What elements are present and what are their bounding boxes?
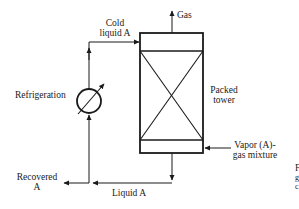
- packed-tower-label-line2: tower: [207, 95, 241, 106]
- vapor-label-line1: Vapor (A)-: [230, 140, 280, 151]
- gas-label: Gas: [177, 10, 192, 21]
- vapor-label-line2: gas mixture: [230, 150, 280, 161]
- cold-liquid-label-line2: liquid A: [93, 28, 137, 39]
- cutoff-text-line1: F: [295, 163, 299, 174]
- recovered-label-line1: Recovered: [14, 172, 60, 183]
- liquid-a-label: Liquid A: [112, 188, 146, 199]
- recovered-label-line2: A: [14, 182, 60, 193]
- packed-tower-label-line1: Packed: [207, 85, 241, 96]
- packed-tower: [140, 33, 203, 153]
- cold-liquid-label-line1: Cold: [93, 18, 137, 29]
- refrigeration-label: Refrigeration: [15, 90, 66, 101]
- cutoff-text-line3: c: [295, 182, 299, 193]
- refrigeration-exchanger-icon: [77, 84, 104, 114]
